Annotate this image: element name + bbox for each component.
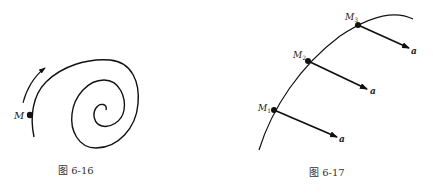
motion-direction-arrow <box>23 68 45 103</box>
vector-label-a2: a <box>370 86 376 96</box>
acceleration-vector-m3 <box>358 25 409 48</box>
point-m1-label: M1 <box>257 103 271 114</box>
spiral-trajectory <box>32 60 138 148</box>
point-m <box>27 112 33 118</box>
figure-6-16: M 图 6-16 <box>13 60 138 176</box>
acceleration-vector-m1 <box>274 110 337 137</box>
figure-caption-6-16: 图 6-16 <box>58 165 94 176</box>
figure-6-17: M1 a M2 a M3 a 图 6-17 <box>257 12 417 178</box>
curved-trajectory <box>259 15 413 150</box>
point-m-label: M <box>13 110 25 121</box>
figures-canvas: M 图 6-16 M1 a M2 a M3 a 图 6-17 <box>0 0 433 194</box>
vector-label-a1: a <box>339 134 345 144</box>
point-m2-label: M2 <box>292 50 306 61</box>
figure-caption-6-17: 图 6-17 <box>309 167 345 178</box>
point-m3-label: M3 <box>344 12 358 23</box>
acceleration-vector-m2 <box>308 61 367 89</box>
vector-label-a3: a <box>411 46 417 56</box>
